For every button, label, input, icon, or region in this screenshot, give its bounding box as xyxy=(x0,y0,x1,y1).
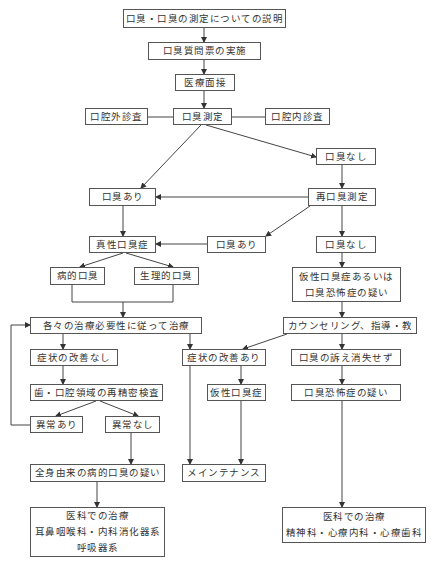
node-label: 口臭恐怖症の疑い xyxy=(304,385,388,401)
node-label: カウンセリング、指導・教 xyxy=(288,318,413,334)
node-label: 医療面接 xyxy=(184,75,226,91)
node-label: 再口臭測定 xyxy=(316,189,369,205)
node-extraoral: 口腔外診査 xyxy=(85,108,148,125)
node-label: 口臭・口臭の測定についての説明 xyxy=(126,11,284,27)
node-explain: 口臭・口臭の測定についての説明 xyxy=(123,9,286,28)
node-label: 口臭なし xyxy=(325,149,367,165)
node-label: 症状の改善なし xyxy=(37,350,111,366)
node-pseudo: 仮性口臭症 xyxy=(207,384,266,401)
node-pseudo-or-phobia: 仮性口臭症あるいは 口臭恐怖症の疑い xyxy=(292,267,401,302)
node-abnormal: 異常あり xyxy=(30,416,83,433)
node-odor-2: 口臭あり xyxy=(207,236,266,253)
node-label: 歯・口腔領域の再精密検査 xyxy=(34,385,160,401)
node-label: 全身由来の病的口臭の疑い xyxy=(35,465,161,481)
node-interview: 医療面接 xyxy=(175,74,235,91)
node-improve: 症状の改善あり xyxy=(182,349,266,366)
node-label: 口臭あり xyxy=(102,189,144,205)
node-remeasure: 再口臭測定 xyxy=(308,188,376,206)
node-label-line2: 口臭恐怖症の疑い xyxy=(305,285,389,301)
node-measure: 口臭測定 xyxy=(173,108,232,125)
node-label: 病的口臭 xyxy=(57,268,99,284)
node-questionnaire: 口臭質問票の実施 xyxy=(148,42,261,60)
node-label-line1: 仮性口臭症あるいは xyxy=(299,269,394,285)
node-label: 真性口臭症 xyxy=(96,237,149,253)
node-label: 異常なし xyxy=(112,417,154,433)
node-label: 口臭質問票の実施 xyxy=(163,43,247,59)
node-label-line2: 耳鼻咽喉科・内科消化器系 xyxy=(35,524,161,540)
node-label: 口臭あり xyxy=(216,237,258,253)
node-maintenance: メインテナンス xyxy=(182,464,266,482)
node-phobia-suspect: 口臭恐怖症の疑い xyxy=(291,384,401,401)
node-medical-2: 医科での治療 精神科・心療内科・心療歯科 xyxy=(282,507,426,543)
node-genuine: 真性口臭症 xyxy=(89,236,156,253)
node-label: 生理的口臭 xyxy=(140,268,193,284)
flowchart: 口臭・口臭の測定についての説明 口臭質問票の実施 医療面接 口臭測定 口腔外診査… xyxy=(0,0,435,572)
node-no-odor-2: 口臭なし xyxy=(316,236,376,253)
node-pathologic: 病的口臭 xyxy=(50,267,105,285)
node-label: 口腔内診査 xyxy=(271,109,324,125)
node-counseling: カウンセリング、指導・教 xyxy=(283,317,417,334)
node-label: 口臭なし xyxy=(325,237,367,253)
node-no-improve: 症状の改善なし xyxy=(30,349,118,366)
node-no-odor-1: 口臭なし xyxy=(316,148,376,165)
node-label: 仮性口臭症 xyxy=(210,385,263,401)
node-label: 異常あり xyxy=(36,417,78,433)
node-label: 各々の治療必要性に従って治療 xyxy=(43,318,190,334)
node-reexam: 歯・口腔領域の再精密検査 xyxy=(30,384,163,401)
node-label-line1: 医科での治療 xyxy=(323,509,386,525)
node-label: 口臭測定 xyxy=(182,109,224,125)
node-label-line2: 精神科・心療内科・心療歯科 xyxy=(286,525,423,541)
node-systemic: 全身由来の病的口臭の疑い xyxy=(30,464,165,482)
node-medical-1: 医科での治療 耳鼻咽喉科・内科消化器系 呼吸器系 xyxy=(30,507,165,557)
node-complaint-persists: 口臭の訴え消失せず xyxy=(291,349,401,366)
node-odor-1: 口臭あり xyxy=(89,188,156,206)
node-label-line3: 呼吸器系 xyxy=(77,540,119,556)
node-treat-per-need: 各々の治療必要性に従って治療 xyxy=(30,317,202,334)
node-label: メインテナンス xyxy=(187,465,261,481)
node-intraoral: 口腔内診査 xyxy=(265,108,330,125)
node-label-line1: 医科での治療 xyxy=(66,508,129,524)
node-normal: 異常なし xyxy=(105,416,160,433)
node-label: 症状の改善あり xyxy=(187,350,261,366)
node-label: 口腔外診査 xyxy=(90,109,143,125)
node-label: 口臭の訴え消失せず xyxy=(299,350,394,366)
node-physiologic: 生理的口臭 xyxy=(134,267,199,285)
